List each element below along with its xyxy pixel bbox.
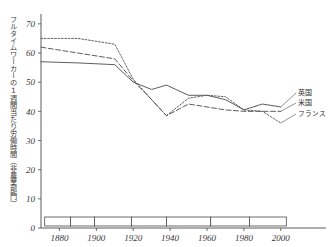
y-tick-label: 10: [26, 194, 36, 204]
legend-label-uk: 英国: [298, 88, 312, 97]
y-tick-label: 50: [26, 77, 36, 87]
timeline-band-empty: [211, 217, 250, 226]
legend-label-us: 米国: [298, 98, 312, 107]
y-tick-label: 30: [25, 136, 36, 146]
x-tick-label: 1980: [235, 233, 254, 243]
series-line-us: [41, 47, 281, 116]
timeline-band-filled: [94, 217, 131, 226]
data-series: [41, 38, 281, 123]
timeline-band-empty: [71, 217, 95, 226]
y-tick-label: 40: [26, 107, 36, 117]
timeline-band-filled: [166, 217, 210, 226]
timeline-band-empty: [131, 217, 166, 226]
timeline-band-filled: [249, 217, 286, 226]
y-tick-label: 0: [31, 223, 36, 233]
y-tick-label: 20: [26, 165, 36, 175]
x-tick-label: 1880: [50, 233, 69, 243]
timeline-band-filled: [45, 217, 71, 226]
y-axis-ticks: 010203040506070: [25, 19, 41, 233]
x-tick-label: 1900: [87, 233, 106, 243]
series-line-uk: [41, 62, 281, 110]
x-tick-label: 1960: [198, 233, 217, 243]
x-tick-label: 1920: [124, 233, 143, 243]
timeline-bands: [45, 217, 287, 226]
y-tick-label: 60: [26, 48, 36, 58]
legend-label-fr: フランス: [298, 110, 326, 118]
x-tick-label: 2000: [272, 233, 291, 243]
x-tick-label: 1940: [161, 233, 180, 243]
chart-container: フルタイムワーカーの1週間当たり労働時間（非農業部門） 010203040506…: [0, 0, 328, 247]
line-chart-plot: 010203040506070 188019001920194019601980…: [0, 0, 328, 247]
chart-legend: 英国米国フランス: [281, 88, 326, 123]
y-tick-label: 70: [26, 19, 36, 29]
x-axis-ticks: 1880190019201940196019802000: [50, 228, 290, 243]
